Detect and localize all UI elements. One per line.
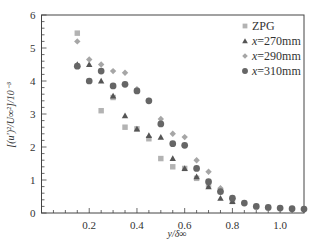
x-tick-label: 1.0 (273, 219, 287, 231)
y-tick-label: 2 (30, 141, 36, 153)
x-tick-label: 0.8 (226, 219, 240, 231)
y-tick-label: 3 (30, 108, 36, 120)
legend-item: x=290mm (242, 49, 301, 63)
x-axis-label: y/δ∞ (167, 228, 187, 239)
y-tick-label: 5 (30, 42, 36, 54)
x-tick-label: 0.2 (82, 219, 96, 231)
legend-label: x=310mm (251, 64, 301, 78)
legend-label: x=270mm (251, 34, 301, 48)
y-axis-label: [(u')²/U∞²]/10⁻³ (5, 81, 17, 147)
y-tick-label: 1 (30, 174, 36, 186)
x-tick-label: 0.4 (130, 219, 144, 231)
y-tick-label: 0 (30, 207, 36, 219)
y-tick-label: 6 (30, 9, 36, 21)
scatter-chart: 01234560.20.40.60.81.0 ZPGx=270mmx=290mm… (0, 0, 312, 250)
legend: ZPGx=270mmx=290mmx=310mm (242, 19, 301, 78)
series-x-310mm (74, 63, 307, 213)
y-tick-label: 4 (30, 75, 36, 87)
legend-item: x=270mm (242, 34, 301, 48)
legend-item: ZPG (243, 19, 275, 33)
series-zpg (75, 30, 236, 204)
legend-item: x=310mm (242, 64, 301, 78)
legend-label: ZPG (252, 19, 275, 33)
legend-label: x=290mm (251, 49, 301, 63)
series-x-290mm (74, 38, 236, 201)
